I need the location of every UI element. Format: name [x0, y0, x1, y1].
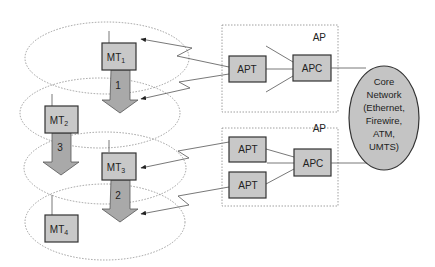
apt-3: APT [229, 172, 266, 198]
radio-link-mt1 [141, 39, 229, 67]
svg-text:Firewire,: Firewire, [366, 115, 402, 126]
ap-label-1: AP [313, 32, 327, 43]
movement-label-3: 3 [57, 142, 63, 153]
movement-label-2: 2 [115, 190, 121, 201]
radio-link-cell4 [141, 187, 229, 214]
core-network: Core Network (Ethernet, Firewire, ATM, U… [349, 66, 419, 170]
radio-link-mt3 [141, 142, 229, 168]
svg-text:APC: APC [303, 158, 324, 169]
apt-2: APT [229, 137, 266, 162]
mobile-terminal-3: MT3 [102, 153, 136, 180]
radio-cell-2 [20, 78, 180, 148]
access-point-2: AP APT APT APC [222, 123, 338, 206]
ap-label-2: AP [313, 123, 327, 134]
movement-arrow-2: 2 [102, 180, 138, 222]
svg-text:Network: Network [367, 89, 402, 100]
apc-1: APC [293, 55, 331, 81]
svg-text:APT: APT [238, 180, 257, 191]
svg-text:UMTS): UMTS) [369, 141, 399, 152]
svg-text:APT: APT [237, 64, 256, 75]
mobile-terminal-4: MT4 [45, 215, 78, 242]
apc-2: APC [294, 149, 331, 176]
svg-text:APT: APT [238, 144, 257, 155]
radio-link-cell2 [141, 74, 229, 99]
access-point-1: AP APT APC [222, 25, 338, 112]
svg-text:(Ethernet,: (Ethernet, [363, 102, 405, 113]
svg-text:Core: Core [374, 76, 395, 87]
movement-label-1: 1 [115, 80, 121, 91]
network-diagram: 1 3 2 MT1 MT2 MT3 MT4 AP APT [0, 0, 435, 267]
movement-arrow-3: 3 [43, 133, 79, 175]
mobile-terminal-2: MT2 [45, 106, 78, 133]
apt-1: APT [229, 56, 266, 82]
movement-arrow-1: 1 [102, 70, 138, 113]
mobile-terminal-1: MT1 [102, 43, 136, 70]
svg-text:ATM,: ATM, [373, 128, 395, 139]
svg-text:APC: APC [302, 63, 323, 74]
